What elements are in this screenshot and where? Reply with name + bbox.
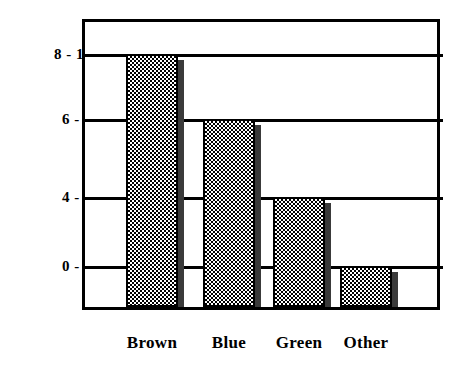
bar-other xyxy=(340,266,398,307)
y-axis-tick-label-6-7: 6 - 7 xyxy=(2,112,92,127)
bar-green xyxy=(273,197,331,307)
plot-area xyxy=(82,19,440,310)
bar-other-body xyxy=(340,266,392,307)
bar-green-body xyxy=(273,197,325,307)
bar-brown xyxy=(126,54,184,307)
bar-blue xyxy=(203,119,261,307)
y-axis-tick-label-8-10: 8 - 10 xyxy=(2,47,92,62)
y-axis-tick-label-4-5: 4 - 5 xyxy=(2,190,92,205)
bar-blue-body xyxy=(203,119,255,307)
y-axis-tick-label-0-3: 0 - 3 xyxy=(2,259,92,274)
bar-brown-body xyxy=(126,54,178,307)
bar-chart: 8 - 10 6 - 7 4 - 5 0 - 3 Brown xyxy=(0,0,465,373)
x-axis-tick-label-other: Other xyxy=(311,334,421,352)
